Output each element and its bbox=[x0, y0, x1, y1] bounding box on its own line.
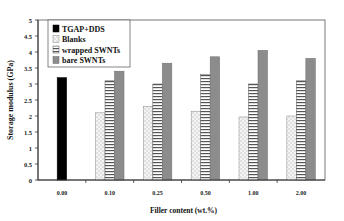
x-tick-label: 0.25 bbox=[152, 190, 163, 196]
y-tick-label: 3 bbox=[29, 81, 33, 88]
bar-bare-swnts-2.00 bbox=[306, 58, 316, 180]
x-tick-label: 0.50 bbox=[200, 190, 211, 196]
legend-label: Blanks bbox=[62, 35, 86, 44]
bar-bare-swnts-0.25 bbox=[162, 63, 172, 180]
y-tick-label: 0 bbox=[29, 177, 32, 184]
bar-wrapped-swnts-0.25 bbox=[153, 84, 163, 180]
y-tick-label: 4 bbox=[29, 49, 33, 56]
y-tick-label: 1 bbox=[29, 145, 32, 152]
chart-canvas: 00.511.522.533.544.55Storage modulus (GP… bbox=[0, 0, 344, 221]
y-tick-label: 5 bbox=[29, 17, 33, 24]
bar-wrapped-swnts-0.50 bbox=[201, 74, 211, 180]
legend-label: TGAP+DDS bbox=[62, 25, 105, 34]
legend-swatch bbox=[53, 36, 59, 43]
bar-tgap-dds-0.00 bbox=[57, 78, 67, 180]
bar-bare-swnts-0.10 bbox=[115, 71, 125, 180]
legend-swatch bbox=[53, 46, 59, 53]
y-tick-label: 0.5 bbox=[24, 161, 33, 168]
bar-blanks-0.50 bbox=[191, 111, 201, 180]
x-axis-label: Filler content (wt.%) bbox=[150, 206, 218, 215]
y-tick-label: 2 bbox=[29, 113, 32, 120]
bar-bare-swnts-1.00 bbox=[258, 50, 268, 180]
storage-modulus-bar-chart: 00.511.522.533.544.55Storage modulus (GP… bbox=[0, 0, 344, 221]
bar-blanks-2.00 bbox=[287, 116, 297, 180]
bar-blanks-0.10 bbox=[96, 113, 106, 180]
legend-label: bare SWNTs bbox=[62, 56, 105, 65]
legend-label: wrapped SWNTs bbox=[62, 46, 120, 55]
y-axis-label: Storage modulus (GPa) bbox=[6, 60, 15, 140]
legend-swatch bbox=[53, 57, 59, 64]
bar-bare-swnts-0.50 bbox=[210, 57, 220, 180]
bar-blanks-0.25 bbox=[143, 106, 153, 180]
legend-swatch bbox=[53, 25, 59, 32]
y-tick-label: 3.5 bbox=[24, 65, 33, 72]
y-tick-label: 2.5 bbox=[24, 97, 33, 104]
y-tick-label: 4.5 bbox=[24, 33, 33, 40]
y-tick-label: 1.5 bbox=[24, 129, 33, 136]
bar-blanks-1.00 bbox=[239, 117, 249, 180]
plot-area: 00.511.522.533.544.55Storage modulus (GP… bbox=[6, 17, 325, 216]
bar-wrapped-swnts-2.00 bbox=[296, 81, 306, 180]
x-tick-label: 1.00 bbox=[248, 190, 259, 196]
x-tick-label: 2.00 bbox=[296, 190, 307, 196]
x-tick-label: 0.10 bbox=[105, 190, 116, 196]
x-tick-label: 0.00 bbox=[57, 190, 68, 196]
bar-wrapped-swnts-0.10 bbox=[105, 81, 115, 180]
bar-wrapped-swnts-1.00 bbox=[249, 84, 259, 180]
